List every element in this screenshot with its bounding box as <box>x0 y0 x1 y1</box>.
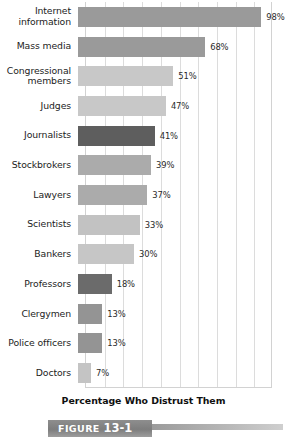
bar <box>78 37 205 57</box>
chart-row: Stockbrokers39% <box>0 150 287 180</box>
bar <box>78 155 151 175</box>
bar <box>78 185 147 205</box>
bar-track: 7% <box>78 358 287 388</box>
figure-number: 13-1 <box>103 421 132 435</box>
bar-value-label: 37% <box>152 190 170 200</box>
chart-row: Bankers30% <box>0 240 287 270</box>
bar <box>78 66 173 86</box>
bar-value-label: 13% <box>107 309 125 319</box>
bar-value-label: 98% <box>266 12 284 22</box>
bar <box>78 333 102 353</box>
category-label: Mass media <box>0 41 78 51</box>
bar <box>78 363 91 383</box>
figure-banner-text: FIGURE 13-1 <box>58 422 132 435</box>
chart-row: Clergymen13% <box>0 299 287 329</box>
bar-value-label: 47% <box>171 101 189 111</box>
bar <box>78 96 166 116</box>
bar <box>78 215 140 235</box>
chart-row: Journalists41% <box>0 121 287 151</box>
figure-prefix: FIGURE <box>58 423 100 434</box>
chart-row: Judges47% <box>0 91 287 121</box>
bar-chart: Internetinformation98%Mass media68%Congr… <box>0 0 287 396</box>
bar <box>78 244 134 264</box>
category-label: Journalists <box>0 130 78 140</box>
bar <box>78 126 155 146</box>
bar-value-label: 30% <box>139 249 157 259</box>
category-label: Judges <box>0 101 78 111</box>
category-label: Police officers <box>0 338 78 348</box>
category-label: Clergymen <box>0 309 78 319</box>
chart-row: Police officers13% <box>0 329 287 359</box>
category-label: Internetinformation <box>0 6 78 27</box>
figure-container: Internetinformation98%Mass media68%Congr… <box>0 0 287 439</box>
bar-track: 13% <box>78 329 287 359</box>
bar-value-label: 33% <box>145 220 163 230</box>
figure-banner: FIGURE 13-1 <box>48 420 283 437</box>
bar-track: 33% <box>78 210 287 240</box>
bar-track: 37% <box>78 180 287 210</box>
bar-value-label: 41% <box>160 131 178 141</box>
chart-row: Professors18% <box>0 269 287 299</box>
bar-track: 41% <box>78 121 287 151</box>
chart-row: Internetinformation98% <box>0 2 287 32</box>
x-axis-title: Percentage Who Distrust Them <box>0 395 287 406</box>
chart-row: Doctors7% <box>0 358 287 388</box>
category-label: Bankers <box>0 249 78 259</box>
bar <box>78 7 261 27</box>
figure-banner-tail <box>152 424 283 430</box>
bar-value-label: 7% <box>96 368 109 378</box>
bar-value-label: 18% <box>117 279 135 289</box>
category-label: Congressionalmembers <box>0 66 78 87</box>
bar-track: 47% <box>78 91 287 121</box>
category-label: Stockbrokers <box>0 160 78 170</box>
bar-value-label: 51% <box>178 71 196 81</box>
bar <box>78 304 102 324</box>
bar-track: 30% <box>78 240 287 270</box>
category-label: Professors <box>0 279 78 289</box>
chart-row: Mass media68% <box>0 32 287 62</box>
bar-track: 18% <box>78 269 287 299</box>
category-label: Scientists <box>0 219 78 229</box>
bar-track: 39% <box>78 150 287 180</box>
bar <box>78 274 112 294</box>
chart-row: Scientists33% <box>0 210 287 240</box>
chart-row: Congressionalmembers51% <box>0 61 287 91</box>
bar-track: 51% <box>78 61 287 91</box>
bar-value-label: 13% <box>107 338 125 348</box>
bar-track: 68% <box>78 32 287 62</box>
chart-row: Lawyers37% <box>0 180 287 210</box>
bar-value-label: 39% <box>156 160 174 170</box>
bar-track: 98% <box>78 2 287 32</box>
category-label: Lawyers <box>0 190 78 200</box>
bar-value-label: 68% <box>210 42 228 52</box>
category-label: Doctors <box>0 368 78 378</box>
bar-track: 13% <box>78 299 287 329</box>
